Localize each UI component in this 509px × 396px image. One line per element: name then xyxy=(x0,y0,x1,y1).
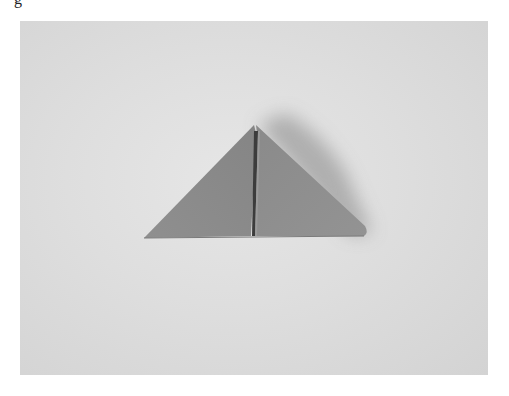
caption-text-fragment: g xyxy=(14,0,22,7)
triangle-left-face xyxy=(144,125,256,238)
origami-triangle-illustration xyxy=(20,21,488,375)
photo-origami-triangle xyxy=(20,21,488,375)
